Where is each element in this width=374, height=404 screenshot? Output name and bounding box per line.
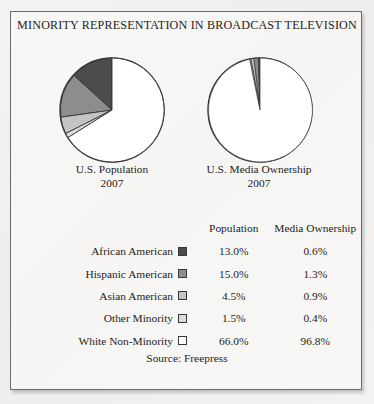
pie-media-svg: [207, 57, 313, 163]
row-label: White Non-Minority: [14, 335, 178, 347]
row-population: 1.5%: [195, 312, 273, 324]
row-swatch-cell: [178, 247, 195, 256]
legend-swatch-icon: [178, 247, 187, 256]
row-media-ownership: 0.4%: [273, 312, 359, 324]
table-row: African American 13.0% 0.6%: [14, 240, 358, 262]
row-swatch-cell: [178, 269, 195, 278]
table-row: Hispanic American 15.0% 1.3%: [14, 262, 358, 284]
legend-swatch-icon: [178, 336, 187, 345]
header-population: Population: [195, 222, 273, 234]
pie-chart-population: [59, 57, 165, 167]
legend-swatch-icon: [178, 291, 187, 300]
pie-chart-media-ownership: [207, 57, 313, 167]
pie-population-caption-year: 2007: [76, 177, 148, 191]
pie-population-svg: [59, 57, 165, 163]
figure-page: MINORITY REPRESENTATION IN BROADCAST TEL…: [0, 0, 374, 404]
legend-swatch-icon: [178, 314, 187, 323]
pie-slice-white-non-minority: [208, 58, 312, 162]
data-table: Population Media Ownership African Ameri…: [14, 216, 358, 352]
row-media-ownership: 0.9%: [273, 290, 359, 302]
row-population: 15.0%: [195, 268, 273, 280]
row-population: 66.0%: [195, 335, 273, 347]
row-swatch-cell: [178, 314, 195, 323]
row-media-ownership: 96.8%: [273, 335, 359, 347]
table-row: White Non-Minority 66.0% 96.8%: [14, 330, 358, 352]
row-media-ownership: 1.3%: [273, 268, 359, 280]
legend-swatch-icon: [178, 269, 187, 278]
row-population: 13.0%: [195, 245, 273, 257]
table-header-row: Population Media Ownership: [14, 216, 358, 240]
pie-population-caption: U.S. Population 2007: [76, 163, 148, 190]
pie-population-caption-line1: U.S. Population: [76, 163, 148, 177]
row-swatch-cell: [178, 336, 195, 345]
row-label: Asian American: [14, 290, 178, 302]
row-population: 4.5%: [195, 290, 273, 302]
pie-media-caption: U.S. Media Ownership 2007: [206, 163, 311, 190]
row-media-ownership: 0.6%: [273, 245, 359, 257]
row-label: Other Minority: [14, 312, 178, 324]
row-label: Hispanic American: [14, 268, 178, 280]
figure-title: MINORITY REPRESENTATION IN BROADCAST TEL…: [0, 18, 374, 33]
pie-media-caption-year: 2007: [206, 177, 311, 191]
header-media-ownership: Media Ownership: [273, 222, 359, 234]
table-row: Other Minority 1.5% 0.4%: [14, 307, 358, 329]
source-note: Source: Freepress: [0, 352, 374, 364]
table-row: Asian American 4.5% 0.9%: [14, 285, 358, 307]
row-swatch-cell: [178, 291, 195, 300]
row-label: African American: [14, 245, 178, 257]
pie-media-caption-line1: U.S. Media Ownership: [206, 163, 311, 177]
